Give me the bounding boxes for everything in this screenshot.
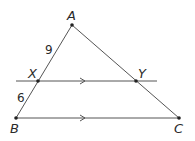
point-C (177, 116, 181, 120)
segment-AC (72, 25, 179, 118)
triangle-diagram: A X Y B C 9 6 (0, 0, 195, 141)
label-X: X (27, 66, 38, 81)
label-Y: Y (138, 66, 147, 81)
label-C: C (174, 121, 184, 136)
measure-XB: 6 (17, 91, 25, 105)
measure-AX: 9 (45, 43, 53, 57)
label-A: A (66, 8, 76, 23)
point-B (14, 116, 18, 120)
label-B: B (10, 121, 19, 136)
point-A (70, 23, 74, 27)
